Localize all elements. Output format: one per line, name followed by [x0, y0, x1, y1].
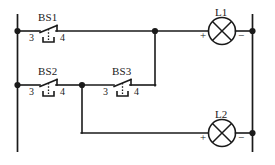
circuit-diagram: BS1 3 4 BS2 3 4 BS3 3 4 L1 + − L2 + − [0, 0, 275, 165]
bs2-label: BS2 [38, 66, 57, 77]
bs3-terminal-4-label: 4 [134, 87, 139, 97]
bs3-terminal-3-label: 3 [103, 87, 108, 97]
junction-dot-right-rail-bottom [249, 130, 255, 136]
bs2-terminal-3-label: 3 [29, 87, 34, 97]
bs3-label: BS3 [112, 66, 131, 77]
junction-dot-left-rail-top [14, 28, 20, 34]
l1-negative-terminal-label: − [238, 30, 244, 41]
l1-label: L1 [215, 7, 227, 18]
junction-dot-right-rail-top [249, 28, 255, 34]
circuit-schematic-canvas [0, 0, 275, 165]
l2-negative-terminal-label: − [238, 132, 244, 143]
bs2-terminal-4-label: 4 [60, 87, 65, 97]
bs1-terminal-3-label: 3 [29, 33, 34, 43]
l2-label: L2 [215, 109, 227, 120]
bs1-label: BS1 [38, 12, 57, 23]
bs1-terminal-4-label: 4 [60, 33, 65, 43]
junction-dot-top-branch [152, 28, 158, 34]
junction-dot-middle-branch [79, 82, 85, 88]
l2-positive-terminal-label: + [200, 132, 206, 143]
l1-positive-terminal-label: + [200, 30, 206, 41]
junction-dot-left-rail-middle [14, 82, 20, 88]
